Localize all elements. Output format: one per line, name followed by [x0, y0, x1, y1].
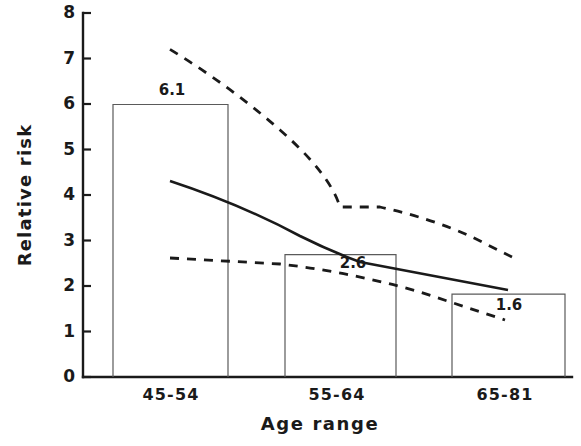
value-label-45-54: 6.1 — [159, 81, 186, 99]
y-tick-label-8: 8 — [63, 2, 75, 22]
lower-confidence-line — [170, 258, 505, 320]
y-tick-labels: 0 1 2 3 4 5 6 7 8 — [63, 2, 75, 386]
y-tick-label-0: 0 — [63, 366, 75, 386]
upper-confidence-line — [170, 49, 512, 257]
y-tick-label-7: 7 — [63, 48, 75, 68]
y-tick-label-2: 2 — [63, 275, 75, 295]
y-tick-label-1: 1 — [63, 321, 75, 341]
y-axis-title: Relative risk — [14, 124, 35, 267]
y-tick-label-4: 4 — [63, 184, 75, 204]
axis-group — [83, 13, 572, 377]
y-tick-label-6: 6 — [63, 93, 75, 113]
y-tick-label-3: 3 — [63, 230, 75, 250]
bar-45-54[interactable] — [113, 105, 228, 378]
y-tick-label-5: 5 — [63, 139, 75, 159]
x-tick-label-65-81: 65-81 — [476, 385, 533, 404]
value-label-65-81: 1.6 — [496, 296, 523, 314]
chart-canvas: 0 1 2 3 4 5 6 7 8 Relative risk 6.1 2.6 — [0, 0, 581, 446]
bars-group — [113, 105, 565, 378]
x-tick-label-55-64: 55-64 — [308, 385, 365, 404]
x-axis-title: Age range — [261, 413, 380, 434]
value-label-55-64: 2.6 — [340, 254, 367, 272]
x-tick-labels: 45-54 55-64 65-81 — [142, 385, 533, 404]
relative-risk-chart: 0 1 2 3 4 5 6 7 8 Relative risk 6.1 2.6 — [0, 0, 581, 446]
x-tick-label-45-54: 45-54 — [142, 385, 199, 404]
